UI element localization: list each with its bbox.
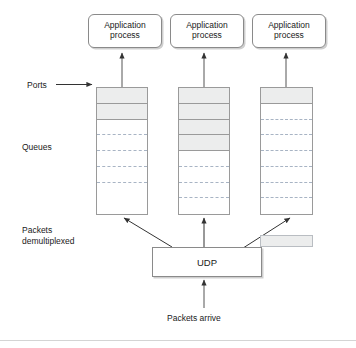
- ports-label: Ports: [27, 80, 47, 91]
- packets-arrive-label: Packets arrive: [167, 313, 221, 324]
- udp-label: UDP: [197, 257, 217, 268]
- queue-slot-empty: [97, 135, 147, 151]
- queue-slot-empty: [179, 198, 229, 214]
- udp-box[interactable]: UDP: [152, 247, 262, 277]
- application-process-label-line2: process: [274, 31, 304, 41]
- queue-slot-empty: [97, 151, 147, 167]
- udp-demultiplexing-figure: Application process Application process …: [0, 0, 356, 348]
- queue-slot-empty: [97, 183, 147, 199]
- queue-slot-empty: [179, 183, 229, 199]
- queue-slot-filled: [261, 88, 312, 104]
- queue-slot-empty: [261, 198, 312, 214]
- application-process-box-1[interactable]: Application process: [88, 14, 162, 48]
- queue-column-2[interactable]: [178, 87, 230, 215]
- queue-slot-empty: [261, 120, 312, 136]
- queue-slot-filled: [179, 135, 229, 151]
- queue-slot-empty: [261, 167, 312, 183]
- queue-column-3[interactable]: [260, 87, 313, 215]
- demultiplexed-packet: [260, 235, 313, 247]
- application-process-box-3[interactable]: Application process: [252, 14, 326, 48]
- queue-slot-empty: [261, 183, 312, 199]
- queue-column-1[interactable]: [96, 87, 148, 215]
- queue-slot-filled: [97, 104, 147, 120]
- queue-slot-empty: [261, 135, 312, 151]
- application-process-label-line2: process: [192, 31, 222, 41]
- queue-slot-filled: [97, 88, 147, 104]
- queue-slot-empty: [179, 151, 229, 167]
- application-process-box-2[interactable]: Application process: [170, 14, 244, 48]
- queue-slot-filled: [179, 120, 229, 136]
- udp-to-queue1-arrow: [124, 218, 172, 247]
- packets-demultiplexed-line1: Packets: [22, 225, 74, 236]
- queues-label: Queues: [22, 142, 52, 153]
- queue-slot-empty: [97, 120, 147, 136]
- queue-slot-empty: [179, 167, 229, 183]
- bottom-divider: [0, 340, 356, 341]
- queue-slot-filled: [179, 104, 229, 120]
- queue-slot-filled: [179, 88, 229, 104]
- packets-demultiplexed-label: Packets demultiplexed: [22, 225, 74, 247]
- queue-slot-empty: [97, 198, 147, 214]
- packets-demultiplexed-line2: demultiplexed: [22, 236, 74, 247]
- queue-slot-empty: [261, 104, 312, 120]
- queue-slot-empty: [97, 167, 147, 183]
- application-process-label-line2: process: [110, 31, 140, 41]
- queue-slot-empty: [261, 151, 312, 167]
